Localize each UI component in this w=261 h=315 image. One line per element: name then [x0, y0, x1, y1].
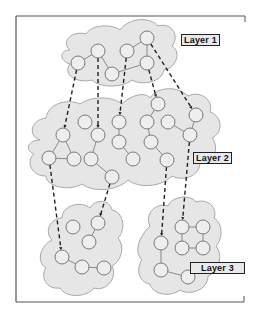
node-b — [91, 44, 105, 58]
node-r3 — [82, 235, 96, 249]
node-r4 — [55, 250, 69, 264]
node-r2 — [91, 216, 105, 230]
node-E — [42, 151, 56, 165]
node-s2 — [175, 220, 189, 234]
node-L — [140, 115, 154, 129]
node-F — [67, 152, 81, 166]
node-s4 — [175, 241, 189, 255]
node-I — [126, 152, 140, 166]
node-D — [112, 115, 126, 129]
node-r6 — [97, 261, 111, 275]
node-e — [140, 31, 154, 45]
node-r1 — [66, 220, 80, 234]
node-P — [183, 128, 197, 142]
node-Q — [160, 153, 174, 167]
cloud-layer-1 — [62, 20, 177, 86]
node-K — [151, 97, 165, 111]
node-s5 — [196, 241, 210, 255]
node-f — [140, 56, 154, 70]
node-s3 — [196, 220, 210, 234]
node-a — [71, 56, 85, 70]
layer-3-label: Layer 3 — [190, 262, 245, 274]
node-A — [56, 128, 70, 142]
node-M — [161, 115, 175, 129]
node-s6 — [154, 263, 168, 277]
layer-2-label: Layer 2 — [193, 152, 232, 164]
node-r5 — [75, 260, 89, 274]
node-s1 — [154, 236, 168, 250]
node-O — [144, 135, 158, 149]
node-J — [105, 170, 119, 184]
node-G — [84, 152, 98, 166]
layer-1-label: Layer 1 — [181, 34, 220, 46]
node-d — [120, 44, 134, 58]
node-c — [105, 67, 119, 81]
node-C — [91, 128, 105, 142]
node-N — [189, 108, 203, 122]
cloud-layer-3-left — [40, 201, 122, 295]
node-H — [112, 135, 126, 149]
node-B — [78, 115, 92, 129]
